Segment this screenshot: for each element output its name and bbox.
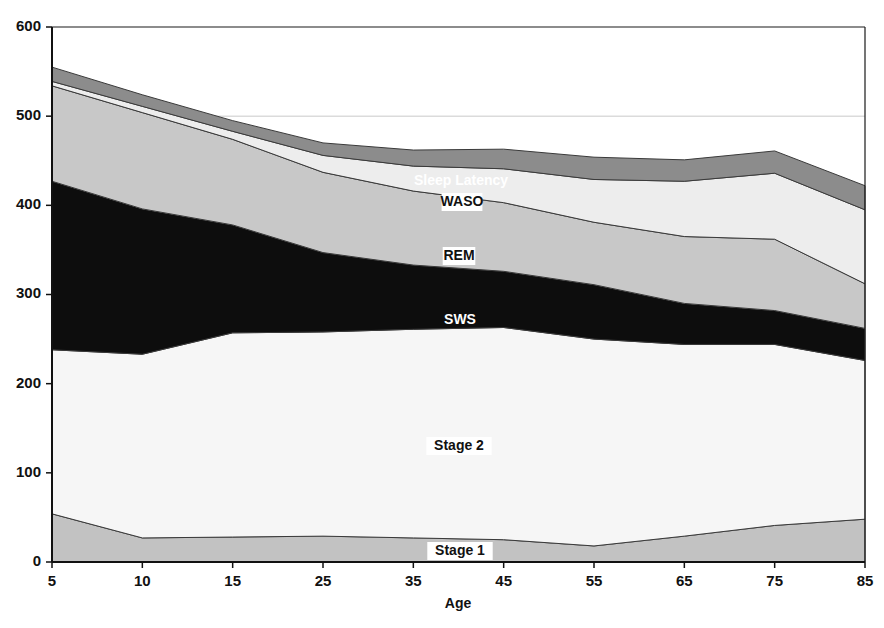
y-tick-label: 400 <box>16 195 41 212</box>
x-tick-label: 25 <box>315 572 332 589</box>
y-tick-label: 0 <box>33 552 41 569</box>
x-tick-label: 75 <box>766 572 783 589</box>
x-tick-label: 55 <box>586 572 603 589</box>
series-label-stage-2: Stage 2 <box>434 437 484 453</box>
chart-canvas: 0100200300400500600 5101525354555657585 … <box>0 0 884 628</box>
x-tick-label: 35 <box>405 572 422 589</box>
x-tick-label: 85 <box>857 572 874 589</box>
x-tick-label: 65 <box>676 572 693 589</box>
x-tick-label: 15 <box>224 572 241 589</box>
y-tick-label: 300 <box>16 284 41 301</box>
x-tick-label: 45 <box>495 572 512 589</box>
y-tick-label: 200 <box>16 374 41 391</box>
y-tick-label: 100 <box>16 463 41 480</box>
series-label-rem: REM <box>443 247 474 263</box>
y-tick-label: 600 <box>16 17 41 34</box>
stacked-area-chart: 0100200300400500600 5101525354555657585 … <box>0 0 884 628</box>
series-label-sws: SWS <box>444 311 476 327</box>
y-tick-label: 500 <box>16 106 41 123</box>
x-axis-title: Age <box>445 595 472 611</box>
x-tick-label: 5 <box>48 572 56 589</box>
series-label-stage-1: Stage 1 <box>435 542 485 558</box>
series-label-waso: WASO <box>441 193 484 209</box>
series-label-sleep-latency: Sleep Latency <box>414 172 508 188</box>
x-tick-label: 10 <box>134 572 151 589</box>
